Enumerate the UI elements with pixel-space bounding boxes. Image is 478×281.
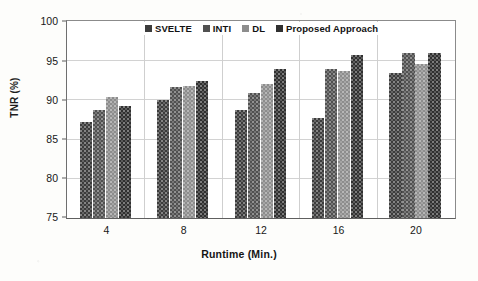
chart-legend: SVELTEINTIDLProposed Approach bbox=[143, 22, 380, 35]
y-tick-mark bbox=[62, 138, 66, 139]
y-tick-label: 90 bbox=[12, 94, 58, 106]
legend-label: INTI bbox=[213, 23, 231, 34]
bar-inti-4 bbox=[93, 110, 105, 218]
bar-proposed-approach-8 bbox=[196, 81, 208, 218]
x-tick-label: 8 bbox=[154, 224, 214, 236]
bar-svelte-12 bbox=[235, 110, 247, 218]
bar-proposed-approach-20 bbox=[428, 53, 440, 218]
legend-swatch-icon bbox=[145, 25, 152, 32]
legend-item-inti: INTI bbox=[203, 23, 231, 34]
x-axis-label: Runtime (Min.) bbox=[0, 248, 478, 260]
y-tick-label: 80 bbox=[12, 172, 58, 184]
bar-inti-16 bbox=[325, 69, 337, 218]
x-tick-label: 4 bbox=[76, 224, 136, 236]
y-tick-label: 100 bbox=[12, 15, 58, 27]
bar-dl-12 bbox=[261, 84, 273, 218]
y-tick-mark bbox=[62, 21, 66, 22]
legend-item-proposed-approach: Proposed Approach bbox=[276, 23, 378, 34]
bar-inti-12 bbox=[248, 93, 260, 218]
legend-label: SVELTE bbox=[155, 23, 192, 34]
y-tick-mark bbox=[62, 217, 66, 218]
bar-proposed-approach-16 bbox=[351, 55, 363, 218]
bar-svelte-8 bbox=[157, 100, 169, 218]
x-tick-label: 20 bbox=[386, 224, 446, 236]
bar-svelte-20 bbox=[389, 73, 401, 218]
legend-label: DL bbox=[252, 23, 265, 34]
bar-dl-8 bbox=[183, 86, 195, 218]
bar-dl-20 bbox=[415, 64, 427, 218]
legend-label: Proposed Approach bbox=[286, 23, 378, 34]
bar-svelte-4 bbox=[80, 122, 92, 218]
y-tick-label: 75 bbox=[12, 211, 58, 223]
legend-swatch-icon bbox=[276, 25, 283, 32]
bar-inti-20 bbox=[402, 53, 414, 218]
bar-inti-8 bbox=[170, 87, 182, 218]
y-tick-mark bbox=[62, 99, 66, 100]
legend-item-dl: DL bbox=[242, 23, 265, 34]
y-tick-label: 85 bbox=[12, 133, 58, 145]
bar-dl-4 bbox=[106, 97, 118, 218]
bar-proposed-approach-12 bbox=[274, 69, 286, 218]
y-tick-mark bbox=[62, 60, 66, 61]
y-tick-label: 95 bbox=[12, 55, 58, 67]
x-tick-label: 12 bbox=[231, 224, 291, 236]
y-tick-mark bbox=[62, 178, 66, 179]
bar-chart: TNR (%) 7580859095100 48121620 Runtime (… bbox=[0, 0, 478, 281]
bar-svelte-16 bbox=[312, 118, 324, 218]
plot-area bbox=[66, 20, 456, 219]
x-tick-label: 16 bbox=[309, 224, 369, 236]
legend-swatch-icon bbox=[242, 25, 249, 32]
bar-proposed-approach-4 bbox=[119, 106, 131, 218]
bar-groups bbox=[67, 21, 455, 218]
legend-swatch-icon bbox=[203, 25, 210, 32]
legend-item-svelte: SVELTE bbox=[145, 23, 192, 34]
bar-dl-16 bbox=[338, 71, 350, 218]
